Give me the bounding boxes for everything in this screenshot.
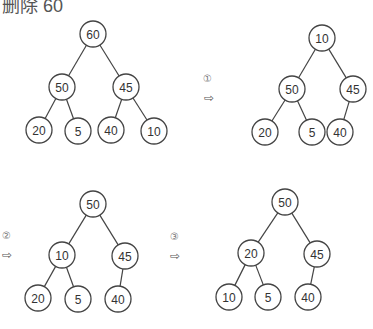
svg-text:50: 50 [278, 196, 292, 210]
tree-node: 20 [25, 285, 51, 311]
tree-node: 45 [340, 76, 366, 102]
svg-text:5: 5 [309, 126, 316, 140]
svg-text:10: 10 [315, 32, 329, 46]
tree-edge [69, 215, 86, 244]
tree-node: 45 [113, 74, 139, 100]
svg-text:20: 20 [258, 126, 272, 140]
tree-edge [44, 266, 55, 286]
tree-step-2: 50104520540 [25, 191, 138, 312]
right-arrow-icon: ⇨ [204, 92, 214, 104]
tree-node: 20 [252, 119, 278, 145]
svg-text:45: 45 [118, 250, 132, 264]
tree-edge [115, 99, 121, 117]
svg-text:40: 40 [333, 126, 347, 140]
svg-text:45: 45 [346, 83, 360, 97]
tree-edge [299, 49, 316, 78]
svg-text:50: 50 [86, 198, 100, 212]
tree-edge [69, 45, 87, 76]
tree-node: 5 [65, 118, 91, 144]
svg-text:20: 20 [32, 124, 46, 138]
right-arrow-icon: ⇨ [2, 249, 12, 261]
svg-text:50: 50 [285, 83, 299, 97]
tree-edge [258, 213, 278, 242]
tree-node: 40 [327, 119, 353, 145]
svg-text:20: 20 [244, 247, 258, 261]
tree-node: 45 [112, 243, 138, 269]
step-2-label: ② [2, 231, 11, 241]
tree-edge [100, 215, 118, 245]
tree-edge [66, 267, 73, 287]
heap-diagram: 6050452054010 10504520540 50104520540 50… [0, 0, 373, 329]
svg-text:40: 40 [111, 293, 125, 307]
tree-edge [344, 101, 349, 119]
tree-node: 20 [26, 117, 52, 143]
svg-text:20: 20 [31, 292, 45, 306]
svg-text:10: 10 [147, 125, 161, 139]
tree-edge [100, 45, 119, 76]
tree-node: 20 [238, 240, 264, 266]
tree-node: 60 [80, 21, 106, 47]
svg-text:45: 45 [310, 248, 324, 262]
tree-edge [311, 267, 315, 285]
svg-text:40: 40 [301, 291, 315, 305]
tree-node: 5 [65, 286, 91, 312]
tree-node: 50 [49, 74, 75, 100]
svg-text:5: 5 [265, 291, 272, 305]
svg-text:10: 10 [55, 249, 69, 263]
tree-node: 40 [98, 117, 124, 143]
tree-edge [235, 265, 245, 286]
tree-node: 10 [216, 284, 242, 310]
tree-node: 40 [105, 286, 131, 312]
tree-edge [45, 98, 56, 118]
tree-edge [120, 269, 123, 286]
svg-text:60: 60 [86, 28, 100, 42]
tree-edge [297, 101, 306, 120]
tree-step-1: 10504520540 [252, 25, 366, 145]
step-1-label: ① [203, 74, 212, 84]
tree-node: 10 [309, 25, 335, 51]
tree-initial: 6050452054010 [26, 21, 167, 144]
right-arrow-icon: ⇨ [170, 250, 180, 262]
svg-text:5: 5 [75, 125, 82, 139]
tree-node: 40 [295, 284, 321, 310]
step-3-label: ③ [170, 232, 179, 242]
tree-edge [292, 213, 310, 243]
tree-node: 10 [49, 242, 75, 268]
tree-edge [256, 265, 264, 285]
svg-text:40: 40 [104, 124, 118, 138]
svg-text:45: 45 [119, 81, 133, 95]
tree-node: 50 [80, 191, 106, 217]
svg-text:10: 10 [222, 291, 236, 305]
tree-node: 50 [272, 189, 298, 215]
svg-text:50: 50 [55, 81, 69, 95]
tree-node: 5 [299, 119, 325, 145]
tree-node: 5 [255, 284, 281, 310]
tree-node: 50 [279, 76, 305, 102]
tree-edge [329, 49, 346, 78]
tree-node: 10 [141, 118, 167, 144]
tree-edge [272, 100, 285, 121]
tree-node: 45 [304, 241, 330, 267]
svg-text:5: 5 [75, 293, 82, 307]
tree-edge [66, 99, 73, 119]
tree-edge [133, 98, 147, 120]
tree-step-3: 50204510540 [216, 189, 330, 310]
